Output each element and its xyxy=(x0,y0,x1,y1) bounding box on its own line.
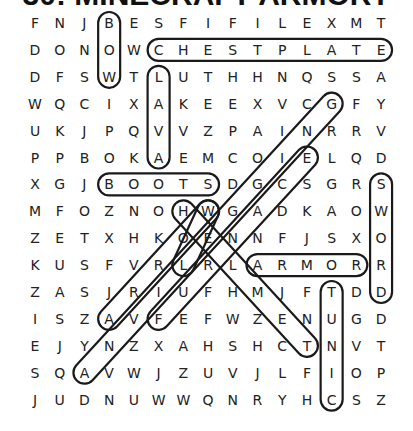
grid-letter[interactable]: D xyxy=(371,309,391,329)
grid-letter[interactable]: J xyxy=(50,336,70,356)
grid-letter[interactable]: P xyxy=(371,363,391,383)
grid-letter[interactable]: N xyxy=(99,390,119,410)
grid-letter[interactable]: H xyxy=(247,336,267,356)
grid-letter[interactable]: E xyxy=(173,148,193,168)
grid-letter[interactable]: F xyxy=(198,282,218,302)
grid-letter[interactable]: J xyxy=(272,282,292,302)
grid-letter[interactable]: Z xyxy=(74,309,94,329)
grid-letter[interactable]: W xyxy=(223,309,243,329)
grid-letter[interactable]: N xyxy=(297,309,317,329)
grid-letter[interactable]: O xyxy=(74,201,94,221)
grid-letter[interactable]: E xyxy=(223,94,243,114)
grid-letter[interactable]: L xyxy=(223,255,243,275)
grid-letter[interactable]: F xyxy=(297,282,317,302)
grid-letter[interactable]: E xyxy=(297,148,317,168)
grid-letter[interactable]: G xyxy=(247,174,267,194)
grid-letter[interactable]: T xyxy=(322,282,342,302)
grid-letter[interactable]: F xyxy=(149,309,169,329)
grid-letter[interactable]: N xyxy=(223,228,243,248)
grid-letter[interactable]: D xyxy=(25,40,45,60)
grid-letter[interactable]: F xyxy=(346,94,366,114)
grid-letter[interactable]: Z xyxy=(173,363,193,383)
grid-letter[interactable]: U xyxy=(50,255,70,275)
grid-letter[interactable]: V xyxy=(371,121,391,141)
grid-letter[interactable]: K xyxy=(173,94,193,114)
grid-letter[interactable]: A xyxy=(371,67,391,87)
grid-letter[interactable]: J xyxy=(247,363,267,383)
grid-letter[interactable]: X xyxy=(25,174,45,194)
grid-letter[interactable]: W xyxy=(173,390,193,410)
grid-letter[interactable]: V xyxy=(124,255,144,275)
grid-letter[interactable]: Y xyxy=(371,94,391,114)
grid-letter[interactable]: O xyxy=(173,228,193,248)
grid-letter[interactable]: S xyxy=(74,67,94,87)
grid-letter[interactable]: R xyxy=(346,174,366,194)
grid-letter[interactable]: L xyxy=(173,255,193,275)
grid-letter[interactable]: R xyxy=(149,255,169,275)
grid-letter[interactable]: Y xyxy=(272,390,292,410)
grid-letter[interactable]: D xyxy=(371,148,391,168)
grid-letter[interactable]: X xyxy=(149,336,169,356)
grid-letter[interactable]: E xyxy=(198,94,218,114)
grid-letter[interactable]: L xyxy=(149,67,169,87)
grid-letter[interactable]: L xyxy=(322,148,342,168)
grid-letter[interactable]: R xyxy=(124,282,144,302)
grid-letter[interactable]: Q xyxy=(346,148,366,168)
grid-letter[interactable]: J xyxy=(25,390,45,410)
grid-letter[interactable]: J xyxy=(149,363,169,383)
grid-letter[interactable]: U xyxy=(50,390,70,410)
grid-letter[interactable]: Z xyxy=(99,201,119,221)
grid-letter[interactable]: T xyxy=(124,67,144,87)
grid-letter[interactable]: I xyxy=(272,148,292,168)
grid-letter[interactable]: P xyxy=(99,121,119,141)
grid-letter[interactable]: S xyxy=(297,174,317,194)
grid-letter[interactable]: W xyxy=(198,201,218,221)
grid-letter[interactable]: S xyxy=(74,255,94,275)
grid-letter[interactable]: X xyxy=(322,13,342,33)
grid-letter[interactable]: R xyxy=(272,255,292,275)
grid-letter[interactable]: X xyxy=(124,94,144,114)
grid-letter[interactable]: M xyxy=(25,201,45,221)
grid-letter[interactable]: A xyxy=(149,94,169,114)
grid-letter[interactable]: H xyxy=(247,67,267,87)
grid-letter[interactable]: F xyxy=(25,13,45,33)
grid-letter[interactable]: S xyxy=(322,67,342,87)
grid-letter[interactable]: W xyxy=(371,201,391,221)
grid-letter[interactable]: K xyxy=(25,255,45,275)
grid-letter[interactable]: O xyxy=(346,201,366,221)
grid-letter[interactable]: F xyxy=(50,67,70,87)
grid-letter[interactable]: Q xyxy=(297,67,317,87)
grid-letter[interactable]: X xyxy=(346,228,366,248)
grid-letter[interactable]: O xyxy=(346,363,366,383)
grid-letter[interactable]: Z xyxy=(247,309,267,329)
grid-letter[interactable]: O xyxy=(124,174,144,194)
grid-letter[interactable]: O xyxy=(247,148,267,168)
grid-letter[interactable]: Z xyxy=(25,228,45,248)
grid-letter[interactable]: U xyxy=(173,282,193,302)
grid-letter[interactable]: N xyxy=(124,201,144,221)
grid-letter[interactable]: P xyxy=(50,148,70,168)
grid-letter[interactable]: F xyxy=(272,228,292,248)
grid-letter[interactable]: U xyxy=(124,390,144,410)
grid-letter[interactable]: N xyxy=(297,121,317,141)
grid-letter[interactable]: H xyxy=(173,40,193,60)
grid-letter[interactable]: Q xyxy=(50,363,70,383)
grid-letter[interactable]: W xyxy=(124,40,144,60)
grid-letter[interactable]: K xyxy=(149,228,169,248)
grid-letter[interactable]: H xyxy=(173,201,193,221)
grid-letter[interactable]: T xyxy=(297,336,317,356)
grid-letter[interactable]: S xyxy=(346,67,366,87)
grid-letter[interactable]: S xyxy=(50,309,70,329)
grid-letter[interactable]: D xyxy=(272,201,292,221)
grid-letter[interactable]: H xyxy=(124,228,144,248)
grid-letter[interactable]: F xyxy=(173,13,193,33)
grid-letter[interactable]: A xyxy=(74,363,94,383)
grid-letter[interactable]: C xyxy=(272,174,292,194)
grid-letter[interactable]: C xyxy=(223,148,243,168)
grid-letter[interactable]: L xyxy=(297,40,317,60)
grid-letter[interactable]: G xyxy=(346,309,366,329)
grid-letter[interactable]: R xyxy=(322,121,342,141)
grid-letter[interactable]: O xyxy=(50,40,70,60)
grid-letter[interactable]: M xyxy=(198,148,218,168)
grid-letter[interactable]: E xyxy=(272,309,292,329)
